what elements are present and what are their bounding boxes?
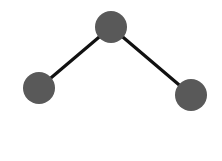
node-right xyxy=(175,79,207,111)
node-top xyxy=(95,11,127,43)
node-left xyxy=(23,72,55,104)
node-graph-diagram xyxy=(0,0,222,161)
nodes xyxy=(23,11,207,111)
